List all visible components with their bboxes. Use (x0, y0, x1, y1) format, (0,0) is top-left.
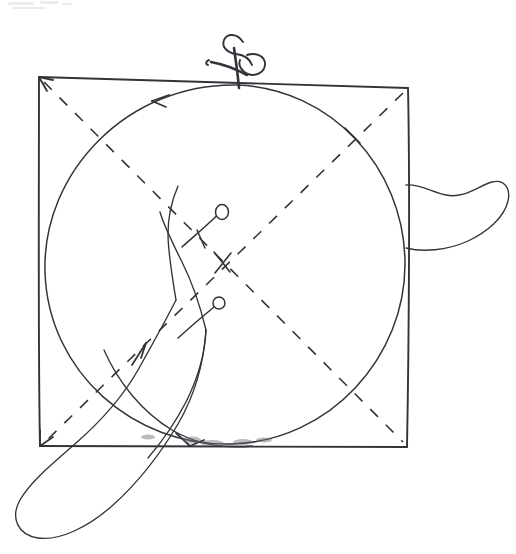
sweep-arc-lower-left (104, 350, 252, 447)
scan-artifacts (8, 1, 72, 9)
pin-marker-lower (178, 297, 225, 338)
diagram-canvas (0, 0, 516, 554)
arrow-corner-bottom-left (40, 430, 53, 446)
fabric-lobe-right (406, 181, 509, 250)
fabric-lobe-bottom-left (16, 186, 206, 538)
arrow-counterclockwise (152, 95, 169, 107)
pencil-smudges (141, 435, 272, 447)
diagonal-dashed-ne-sw (45, 93, 403, 442)
scissors (206, 35, 265, 88)
arrow-diagonal-upward (132, 343, 146, 365)
hand-drawn-sketch (0, 0, 516, 554)
tick-mark-upper-right (345, 128, 360, 143)
